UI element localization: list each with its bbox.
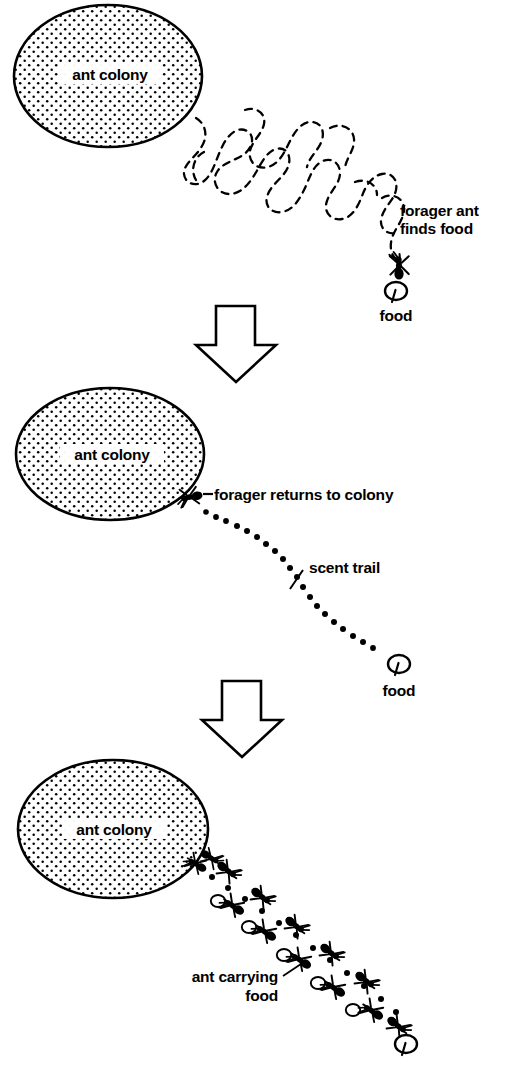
ant-carrying-food-label-line2: food bbox=[245, 987, 278, 1004]
forager-finds-food-label-line1: forager ant bbox=[400, 202, 479, 219]
panel-2-colony-label: ant colony bbox=[74, 446, 150, 463]
diagram-canvas: ant colony forager ant finds food food bbox=[0, 0, 506, 1065]
panel-3-colony-label: ant colony bbox=[76, 821, 152, 838]
food-icon-carried bbox=[242, 921, 256, 933]
ant-carrying-food-label-line1: ant carrying bbox=[192, 968, 278, 985]
panel-1-colony-label: ant colony bbox=[72, 66, 148, 83]
ant-foraging-diagram: ant colony forager ant finds food food bbox=[0, 0, 506, 1065]
page-background bbox=[0, 0, 506, 1065]
scent-trail-label: scent trail bbox=[309, 559, 380, 576]
food-label-panel-1: food bbox=[380, 307, 413, 324]
forager-finds-food-label-line2: finds food bbox=[400, 220, 473, 237]
food-icon-carried bbox=[211, 895, 225, 907]
forager-returns-label: forager returns to colony bbox=[214, 486, 394, 503]
food-label-panel-2: food bbox=[383, 682, 416, 699]
food-icon-carried bbox=[346, 1004, 360, 1016]
food-icon-carried bbox=[277, 949, 291, 961]
food-icon-carried bbox=[311, 977, 325, 989]
